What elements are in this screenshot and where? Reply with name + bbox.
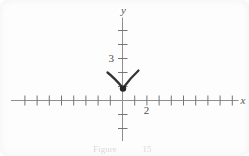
caption-word: Figure: [93, 144, 117, 154]
y-axis-label: y: [120, 4, 126, 16]
figure-caption: Figure 15: [93, 144, 152, 154]
v-curve-right-arm: [124, 71, 139, 88]
coordinate-plane-diagram: y x 3 2 Figure 15: [0, 0, 249, 156]
v-curve-left-arm: [108, 73, 123, 88]
y-tick-label-3: 3: [109, 52, 115, 64]
vertex-point-dot: [120, 85, 126, 91]
caption-number: 15: [143, 144, 153, 154]
x-tick-label-2: 2: [144, 104, 150, 116]
x-axis-label: x: [240, 94, 246, 106]
figure-canvas: y x 3 2 Figure 15: [0, 0, 249, 156]
